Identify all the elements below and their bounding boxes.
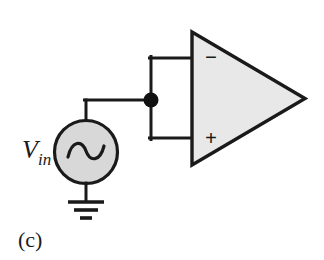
connection-dot-icon: [144, 93, 159, 108]
figure-caption: (c): [18, 227, 42, 252]
source-label-subscript: in: [38, 150, 51, 169]
opamp-noninverting-input-label: +: [205, 126, 217, 150]
source-label: V in: [22, 135, 51, 169]
circuit-diagram-canvas: − + V in (c): [0, 0, 324, 260]
opamp-inverting-input-label: −: [205, 45, 217, 69]
ground-symbol-icon: [68, 183, 104, 218]
circuit-figure: − + V in (c): [0, 0, 324, 260]
